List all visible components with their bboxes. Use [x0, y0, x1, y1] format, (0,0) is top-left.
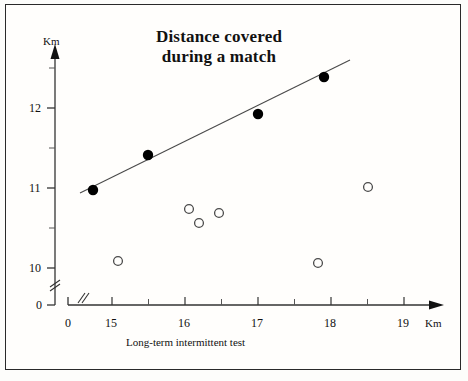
x-axis-arrowhead: [429, 301, 444, 310]
y-tick-label-12: 12: [29, 102, 41, 114]
data-point-open: [215, 209, 224, 218]
data-point-open: [195, 219, 204, 228]
x-axis-break-icon: [78, 293, 89, 303]
x-tick-label-16: 16: [178, 317, 190, 329]
figure-container: Distance covered during a match Km 12 11…: [0, 0, 468, 381]
data-point-filled: [88, 185, 98, 195]
data-point-filled: [253, 109, 263, 119]
data-point-open: [114, 257, 123, 266]
trendline: [80, 60, 350, 193]
data-point-open: [185, 205, 194, 214]
y-axis-unit-label: Km: [43, 36, 60, 47]
series-open-circles: [114, 183, 373, 268]
x-tick-label-18: 18: [324, 317, 336, 329]
data-point-open: [314, 259, 323, 268]
y-tick-label-11: 11: [29, 182, 41, 194]
y-axis: [47, 44, 60, 305]
page-title: Distance covered during a match: [104, 27, 334, 67]
y-tick-label-10: 10: [29, 262, 41, 274]
x-axis-unit-label: Km: [425, 318, 442, 329]
data-point-filled: [319, 72, 329, 82]
chart-title-line-1: Distance covered: [156, 27, 282, 46]
x-axis: [68, 293, 444, 310]
x-tick-label-17: 17: [251, 317, 263, 329]
x-tick-label-19: 19: [397, 317, 409, 329]
x-axis-title: Long-term intermittent test: [126, 337, 245, 348]
x-tick-label-15: 15: [105, 317, 117, 329]
data-point-open: [364, 183, 373, 192]
y-tick-label-0: 0: [36, 299, 42, 311]
x-tick-label-0: 0: [65, 317, 71, 329]
data-point-filled: [143, 150, 153, 160]
chart-title-line-2: during a match: [162, 47, 276, 66]
series-filled-circles: [88, 72, 329, 195]
